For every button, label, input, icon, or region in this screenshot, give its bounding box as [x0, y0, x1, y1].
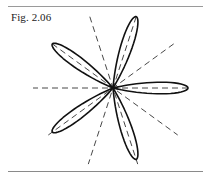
bottom-rule	[8, 171, 203, 172]
dashed-axis-144	[52, 44, 177, 135]
rose-curve-figure	[0, 0, 203, 177]
petal-288	[113, 88, 138, 159]
